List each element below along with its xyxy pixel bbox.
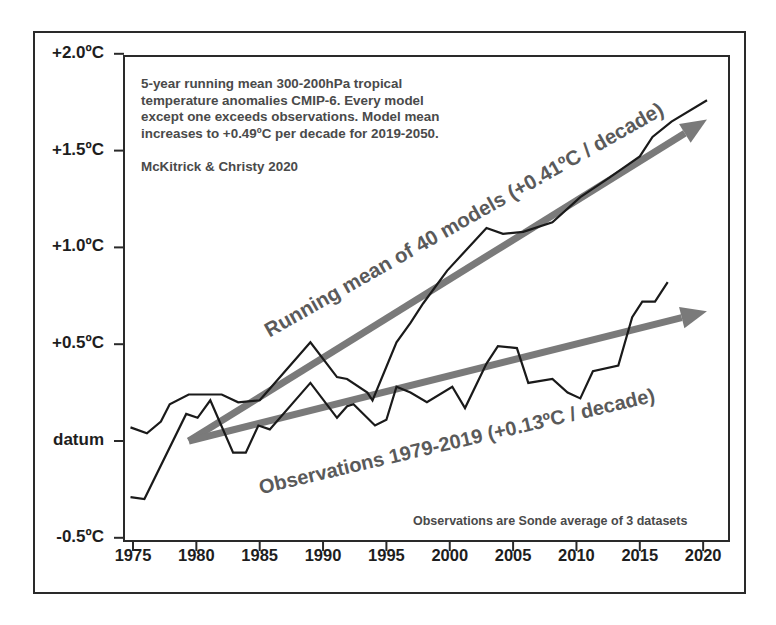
x-tick-label: 1995 [361,546,411,565]
y-tick-label: +1.5ºC [14,140,104,160]
y-axis-ticks [114,54,124,538]
x-tick-label: 1980 [171,546,221,565]
x-tick-label: 2000 [425,546,475,565]
chart-annotation: 5-year running mean 300-200hPa tropical … [141,76,501,176]
citation: McKitrick & Christy 2020 [141,159,501,176]
x-tick-label: 1985 [235,546,285,565]
y-tick-label: datum [14,430,104,450]
annotation-line: except one exceeds observations. Model m… [141,109,501,126]
arrow-head-icon [679,307,707,328]
x-tick-label: 1975 [108,546,158,565]
x-tick-label: 1990 [298,546,348,565]
y-tick-label: +2.0ºC [14,43,104,63]
data-source-footnote: Observations are Sonde average of 3 data… [413,514,687,528]
y-tick-label: +1.0ºC [14,236,104,256]
annotation-line: increases to +0.49ºC per decade for 2019… [141,126,501,143]
annotation-line: temperature anomalies CMIP-6. Every mode… [141,93,501,110]
x-tick-label: 2020 [678,546,728,565]
x-tick-label: 2005 [488,546,538,565]
x-tick-label: 2010 [551,546,601,565]
x-tick-label: 2015 [615,546,665,565]
y-tick-label: +0.5ºC [14,333,104,353]
annotation-line: 5-year running mean 300-200hPa tropical [141,76,501,93]
y-tick-label: -0.5ºC [14,527,104,547]
